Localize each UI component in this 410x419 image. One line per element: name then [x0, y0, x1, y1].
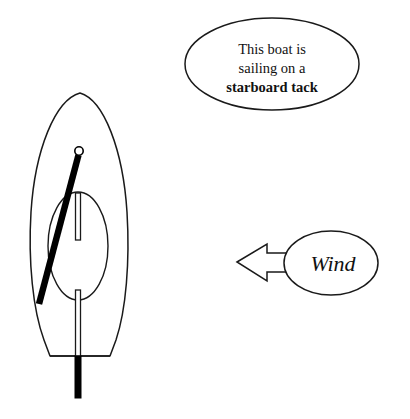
rudder-blade — [75, 356, 81, 398]
tack-callout-line-2: sailing on a — [239, 60, 306, 76]
tiller-bar — [76, 290, 81, 356]
mast-circle — [75, 147, 83, 155]
sailing-diagram: This boat is sailing on a starboard tack… — [0, 0, 410, 419]
tack-callout-line-3: starboard tack — [226, 79, 318, 95]
tack-callout-group: This boat is sailing on a starboard tack — [185, 18, 359, 110]
sailboat-group — [30, 93, 128, 398]
centerboard-bar — [76, 193, 81, 240]
tack-callout-line-1: This boat is — [238, 41, 306, 57]
wind-callout-group: Wind — [237, 231, 378, 295]
wind-label: Wind — [310, 251, 356, 276]
diagram-canvas: This boat is sailing on a starboard tack… — [0, 0, 410, 419]
